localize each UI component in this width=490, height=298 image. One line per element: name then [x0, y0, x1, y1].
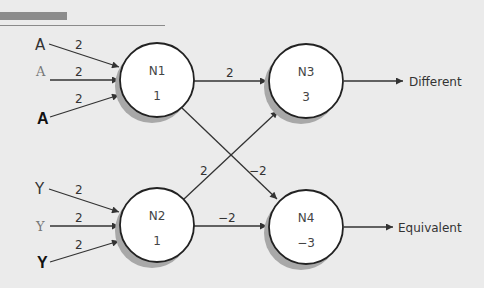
input-y-serif: Y — [35, 219, 45, 234]
input-a-bold: A — [37, 110, 49, 127]
node-threshold: 1 — [153, 89, 161, 103]
node-n1: N1 1 — [115, 43, 194, 123]
weight-label: 2 — [200, 164, 208, 178]
input-y-bold: Y — [37, 254, 48, 271]
weight-label: 2 — [75, 183, 83, 197]
node-threshold: 3 — [302, 90, 310, 104]
node-circle — [269, 44, 343, 118]
output-different: Different — [409, 75, 462, 89]
node-threshold: −3 — [297, 236, 315, 250]
node-name: N3 — [298, 65, 315, 79]
node-n3: N3 3 — [264, 44, 343, 124]
edge-n1-n4 — [182, 108, 277, 199]
weight-label: 2 — [75, 238, 83, 252]
node-circle — [120, 188, 194, 262]
node-name: N4 — [298, 211, 315, 225]
input-y-regular: Y — [34, 180, 45, 198]
node-threshold: 1 — [153, 234, 161, 248]
weight-label: −2 — [249, 164, 267, 178]
input-a-regular: A — [35, 36, 46, 54]
weight-label: 2 — [226, 66, 234, 80]
neural-network-diagram: N1 1 N2 1 N3 3 N4 −3 A A A Y Y Y 2 2 2 2… — [0, 0, 490, 298]
weight-label: 2 — [75, 65, 83, 79]
node-circle — [120, 43, 194, 117]
node-name: N2 — [149, 209, 166, 223]
node-n2: N2 1 — [115, 188, 194, 268]
edge-y-regular-n2 — [49, 189, 119, 212]
node-name: N1 — [149, 64, 166, 78]
weight-label: 2 — [75, 38, 83, 52]
node-n4: N4 −3 — [264, 190, 343, 270]
weight-label: 2 — [75, 211, 83, 225]
edge-a-regular-n1 — [49, 44, 119, 67]
output-equivalent: Equivalent — [398, 221, 462, 235]
edge-a-bold-n1 — [50, 95, 119, 117]
weight-label: 2 — [75, 92, 83, 106]
edge-y-bold-n2 — [50, 241, 119, 262]
input-a-serif: A — [35, 64, 46, 79]
weight-label: −2 — [218, 211, 236, 225]
node-circle — [269, 190, 343, 264]
